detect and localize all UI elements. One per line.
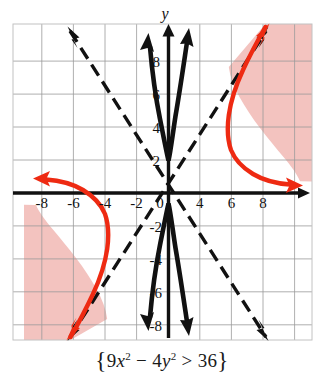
x-tick-label: -6 (67, 195, 80, 211)
y-tick-label: 6 (153, 87, 161, 103)
y-tick-label: 2 (153, 153, 161, 169)
y-tick-label: -8 (150, 318, 163, 334)
caption-constant: 36 (198, 350, 218, 371)
caption-coef-x: 9 (107, 350, 117, 371)
caption-coef-y: 4 (152, 350, 162, 371)
caption-relation: > (182, 350, 193, 371)
figure-caption: {9x2 − 4y2 > 36} (0, 348, 324, 374)
caption-exp-y: 2 (171, 350, 177, 362)
caption-var-y: y (162, 350, 171, 371)
caption-open-brace: { (95, 348, 106, 373)
y-tick-label: -6 (150, 285, 163, 301)
caption-exp-x: 2 (125, 350, 131, 362)
origin-label: 0 (156, 195, 164, 211)
y-tick-label: 4 (153, 120, 161, 136)
x-tick-label: 8 (259, 195, 267, 211)
caption-var-x: x (117, 350, 126, 371)
caption-close-brace: } (217, 348, 228, 373)
x-tick-label: -4 (99, 195, 112, 211)
y-tick-label: -4 (150, 252, 163, 268)
graph-canvas: y -8 -6 -4 -2 4 6 8 0 2 4 6 8 -2 -4 -6 -… (0, 0, 324, 381)
x-tick-label: 6 (228, 195, 236, 211)
x-tick-label: -2 (130, 195, 143, 211)
y-axis-label: y (159, 5, 169, 23)
caption-minus: − (136, 350, 147, 371)
hyperbola-inequality-figure: y -8 -6 -4 -2 4 6 8 0 2 4 6 8 -2 -4 -6 -… (0, 0, 324, 381)
y-tick-label: 8 (153, 54, 161, 70)
x-tick-label: -8 (36, 195, 49, 211)
y-tick-label: -2 (150, 219, 163, 235)
x-tick-label: 4 (196, 195, 204, 211)
